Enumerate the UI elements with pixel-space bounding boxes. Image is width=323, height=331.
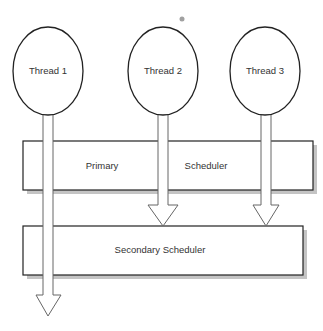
stray-dot	[180, 17, 185, 22]
secondary-scheduler-label: Secondary Scheduler	[115, 244, 206, 255]
thread-scheduler-diagram: Thread 1 Thread 2 Thread 3 Primary Sched…	[0, 0, 323, 331]
primary-scheduler-box	[23, 141, 317, 194]
thread-3-label: Thread 3	[246, 65, 284, 76]
primary-scheduler-label-left: Primary	[86, 160, 119, 171]
thread-1-label: Thread 1	[29, 65, 67, 76]
thread-2-label: Thread 2	[144, 65, 182, 76]
primary-scheduler-label-right: Scheduler	[185, 160, 228, 171]
